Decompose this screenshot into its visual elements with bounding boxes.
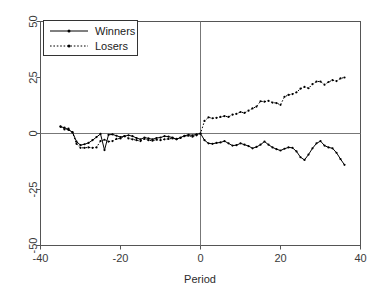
- data-point: [271, 101, 273, 103]
- data-point: [275, 102, 277, 104]
- data-point: [123, 135, 125, 137]
- data-point: [183, 135, 185, 137]
- data-point: [111, 140, 113, 142]
- data-point: [59, 125, 61, 127]
- data-point: [215, 117, 217, 119]
- data-point: [287, 94, 289, 96]
- data-point: [171, 137, 173, 139]
- data-point: [107, 134, 109, 136]
- chart-container: -50-2502550 -40-2002040 Period Winners L…: [0, 0, 391, 292]
- data-point: [303, 86, 305, 88]
- data-point: [75, 143, 77, 145]
- data-point: [255, 106, 257, 108]
- data-point: [195, 134, 197, 136]
- data-point: [207, 116, 209, 118]
- data-point: [323, 84, 325, 86]
- data-point: [103, 139, 105, 141]
- data-point: [295, 91, 297, 93]
- data-point: [107, 140, 109, 142]
- data-point: [335, 152, 337, 154]
- data-point: [235, 144, 237, 146]
- data-point: [99, 133, 101, 135]
- data-point: [259, 144, 261, 146]
- data-point: [335, 80, 337, 82]
- x-tick-label: -40: [33, 252, 49, 264]
- y-tick-label: 0: [27, 130, 39, 136]
- data-point: [199, 132, 201, 134]
- data-point: [339, 77, 341, 79]
- data-point: [167, 138, 169, 140]
- data-point: [307, 87, 309, 89]
- data-point: [299, 156, 301, 158]
- data-point: [315, 80, 317, 82]
- data-point: [323, 145, 325, 147]
- data-point: [343, 76, 345, 78]
- legend-marker-winners: [68, 30, 71, 33]
- data-point: [159, 139, 161, 141]
- data-point: [299, 88, 301, 90]
- data-point: [319, 80, 321, 82]
- data-point: [87, 146, 89, 148]
- data-point: [131, 135, 133, 137]
- data-point: [131, 138, 133, 140]
- data-point: [311, 147, 313, 149]
- x-tick-label: 40: [354, 252, 366, 264]
- data-point: [79, 147, 81, 149]
- legend-label-losers: Losers: [95, 40, 129, 52]
- data-point: [87, 142, 89, 144]
- data-point: [279, 149, 281, 151]
- data-point: [227, 142, 229, 144]
- data-point: [103, 149, 105, 151]
- data-point: [263, 101, 265, 103]
- data-point: [291, 93, 293, 95]
- y-tick-label: 25: [27, 71, 39, 83]
- data-point: [247, 145, 249, 147]
- data-point: [187, 135, 189, 137]
- data-point: [231, 114, 233, 116]
- data-point: [83, 147, 85, 149]
- data-point: [143, 138, 145, 140]
- data-point: [95, 146, 97, 148]
- data-point: [251, 147, 253, 149]
- data-point: [235, 113, 237, 115]
- x-tick-label: 0: [197, 252, 203, 264]
- data-point: [207, 142, 209, 144]
- data-point: [79, 144, 81, 146]
- data-point: [91, 147, 93, 149]
- data-point: [135, 139, 137, 141]
- chart-legend: Winners Losers: [44, 21, 138, 56]
- data-point: [243, 144, 245, 146]
- data-point: [119, 137, 121, 139]
- data-point: [147, 139, 149, 141]
- data-point: [211, 143, 213, 145]
- data-point: [315, 142, 317, 144]
- y-tick-label: 50: [27, 15, 39, 27]
- data-point: [327, 81, 329, 83]
- data-point: [175, 138, 177, 140]
- data-point: [259, 100, 261, 102]
- data-point: [247, 110, 249, 112]
- data-point: [271, 146, 273, 148]
- data-point: [159, 136, 161, 138]
- data-point: [223, 115, 225, 117]
- data-point: [115, 138, 117, 140]
- legend-label-winners: Winners: [95, 25, 136, 37]
- data-point: [191, 136, 193, 138]
- data-point: [139, 140, 141, 142]
- data-point: [251, 107, 253, 109]
- data-point: [263, 140, 265, 142]
- data-point: [339, 158, 341, 160]
- data-point: [223, 140, 225, 142]
- data-point: [219, 141, 221, 143]
- data-point: [295, 150, 297, 152]
- data-point: [91, 139, 93, 141]
- data-point: [243, 112, 245, 114]
- data-point: [267, 144, 269, 146]
- data-point: [163, 135, 165, 137]
- data-point: [127, 137, 129, 139]
- data-point: [83, 143, 85, 145]
- data-point: [267, 100, 269, 102]
- data-point: [167, 136, 169, 138]
- y-tick-label: -25: [27, 182, 39, 198]
- data-point: [239, 142, 241, 144]
